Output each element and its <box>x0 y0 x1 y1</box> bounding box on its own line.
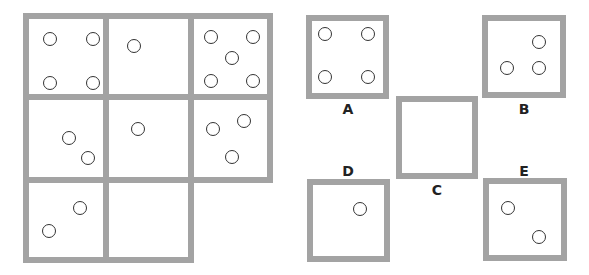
circle-icon <box>361 70 375 84</box>
grid-cell-r2c0 <box>23 177 109 263</box>
grid-cell-r0c0 <box>23 13 109 100</box>
circle-icon <box>361 27 375 41</box>
circle-icon <box>501 201 515 215</box>
circle-icon <box>246 30 260 44</box>
circle-icon <box>131 122 145 136</box>
circle-icon <box>500 61 514 75</box>
circle-icon <box>73 201 87 215</box>
grid-cell-r1c1 <box>103 94 194 183</box>
circle-icon <box>62 131 76 145</box>
option-label-a: A <box>338 101 358 117</box>
grid-cell-r0c1 <box>103 13 194 100</box>
grid-cell-r1c2 <box>188 94 273 183</box>
option-label-e: E <box>514 163 534 179</box>
circle-icon <box>86 32 100 46</box>
circle-icon <box>353 202 367 216</box>
circle-icon <box>237 114 251 128</box>
option-c[interactable] <box>396 96 478 179</box>
grid-cell-r2c1 <box>103 177 194 263</box>
circle-icon <box>204 74 218 88</box>
circle-icon <box>43 76 57 90</box>
circle-icon <box>225 51 239 65</box>
circle-icon <box>42 224 56 238</box>
circle-icon <box>532 230 546 244</box>
circle-icon <box>86 76 100 90</box>
circle-icon <box>318 27 332 41</box>
circle-icon <box>127 39 141 53</box>
circle-icon <box>43 32 57 46</box>
grid-cell-r1c0 <box>23 94 109 183</box>
circle-icon <box>532 61 546 75</box>
circle-icon <box>206 122 220 136</box>
option-e[interactable] <box>483 178 567 261</box>
option-label-d: D <box>338 163 358 179</box>
circle-icon <box>246 74 260 88</box>
option-label-b: B <box>514 101 534 117</box>
circle-icon <box>318 70 332 84</box>
grid-cell-r0c2 <box>188 13 273 100</box>
circle-icon <box>532 35 546 49</box>
circle-icon <box>225 150 239 164</box>
circle-icon <box>81 151 95 165</box>
option-d[interactable] <box>307 179 390 262</box>
option-a[interactable] <box>306 15 389 99</box>
circle-icon <box>204 30 218 44</box>
option-b[interactable] <box>482 15 566 98</box>
option-label-c: C <box>427 182 447 198</box>
